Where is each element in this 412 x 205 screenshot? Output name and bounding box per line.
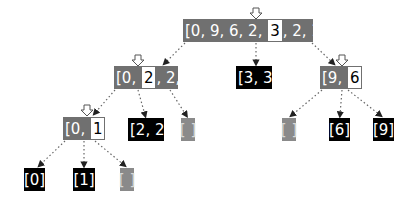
node-middle: [3, 3] bbox=[236, 66, 272, 89]
node-right-middle: [6] bbox=[329, 118, 350, 141]
node-text-before-pivot: [0, bbox=[65, 120, 90, 138]
node-text: [6] bbox=[329, 121, 350, 139]
pivot-arrow-icon bbox=[336, 55, 348, 66]
pivot-arrow-icon bbox=[250, 8, 262, 19]
node-left: [0, 2 , 2, 1] bbox=[114, 66, 178, 89]
node-right-left: [ ] bbox=[282, 118, 296, 141]
pivot-arrow-icon bbox=[132, 55, 144, 66]
quickselect-tree-diagram: [0, 9, 6, 2, 3 , 2, 1, 3] [0, 2 , 2, 1] … bbox=[0, 0, 412, 205]
node-right-right: [9] bbox=[373, 118, 394, 141]
node-left-left: [0, 1 ] bbox=[63, 117, 96, 140]
node-text: [ ] bbox=[119, 171, 135, 189]
node-text: [3, 3] bbox=[238, 69, 278, 87]
node-left-middle: [2, 2] bbox=[128, 118, 164, 141]
node-text-before-pivot: [0, 9, 6, 2, bbox=[185, 22, 267, 40]
node-text: [2, 2] bbox=[130, 121, 170, 139]
node-text: [9] bbox=[373, 121, 394, 139]
node-text-before-pivot: [0, bbox=[116, 69, 141, 87]
node-ll-right: [ ] bbox=[120, 168, 134, 191]
node-text-after-pivot: ] bbox=[362, 69, 368, 87]
node-left-right: [ ] bbox=[181, 118, 195, 141]
node-root: [0, 9, 6, 2, 3 , 2, 1, 3] bbox=[183, 19, 313, 42]
pivot-element: 1 bbox=[90, 117, 106, 140]
node-ll-middle: [1] bbox=[73, 168, 95, 191]
pivot-element: 2 bbox=[141, 66, 157, 89]
node-text: [0] bbox=[24, 171, 45, 189]
node-text-after-pivot: ] bbox=[105, 120, 111, 138]
pivot-element: 6 bbox=[347, 66, 363, 89]
node-right: [9, 6 ] bbox=[320, 66, 351, 89]
node-text-after-pivot: , 2, 1, 3] bbox=[283, 22, 346, 40]
pivot-element: 3 bbox=[267, 19, 283, 42]
node-text: [ ] bbox=[281, 121, 297, 139]
node-ll-left: [0] bbox=[24, 168, 45, 191]
node-text-after-pivot: , 2, 1] bbox=[156, 69, 200, 87]
pivot-arrow-icon bbox=[81, 105, 93, 116]
node-text: [ ] bbox=[180, 121, 196, 139]
node-text-before-pivot: [9, bbox=[322, 69, 347, 87]
node-text: [1] bbox=[73, 171, 94, 189]
